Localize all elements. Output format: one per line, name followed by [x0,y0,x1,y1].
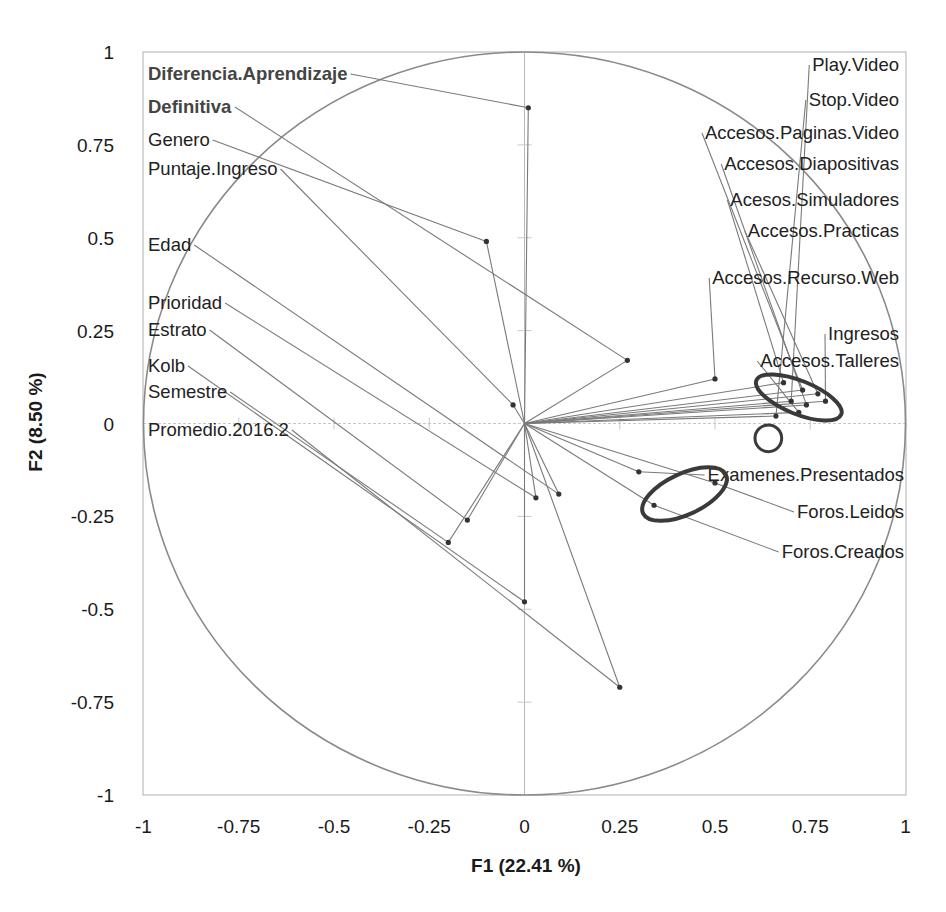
x-tick-label: -0.5 [318,816,351,837]
y-tick-label: 0.25 [77,321,114,342]
y-tick-label: -0.75 [71,692,114,713]
label-leader-line [654,505,779,552]
label-leader-line [188,366,524,602]
label-leader-line [350,74,528,108]
variable-point [651,503,656,508]
variable-point [446,540,451,545]
y-tick-label: -1 [97,785,114,806]
highlight-ellipse [634,456,734,532]
vector-line [525,401,826,423]
variable-label: Ingresos [828,323,899,344]
label-leader-line [715,483,794,512]
variable-label: Kolb [148,355,185,376]
variable-label: Promedio.2016.2 [148,419,289,440]
variable-point [526,105,531,110]
y-axis-title: F2 (8.50 %) [25,372,46,471]
variable-point [533,495,538,500]
variable-point [815,391,820,396]
x-tick-label: 0.25 [601,816,638,837]
variable-label: Foros.Creados [782,541,904,562]
x-tick-label: 0.75 [792,816,829,837]
variable-label: Accesos.Diapositivas [724,153,899,174]
variable-label: Stop.Video [809,89,899,110]
variable-point [510,402,515,407]
y-tick-label: -0.25 [71,506,114,527]
label-leader-line [281,169,513,405]
variable-label: Play.Video [812,54,899,75]
x-tick-label: 0.5 [702,816,728,837]
variable-point [712,376,717,381]
variable-point [617,685,622,690]
label-leader-line [709,278,715,379]
variable-label: Acesos.Simuladores [730,189,899,210]
vector-line [525,424,716,483]
x-axis-title: F1 (22.41 %) [471,855,581,876]
label-leader-line [194,245,559,494]
vector-line [525,424,639,472]
variable-point [636,469,641,474]
x-tick-label: -1 [135,816,152,837]
highlight-ellipse [750,365,847,430]
variable-label: Accesos.Paginas.Video [705,122,899,143]
vector-line [486,241,524,423]
variable-label: Accesos.Practicas [748,220,899,241]
variable-label: Edad [148,234,191,255]
variable-label: Genero [148,129,210,150]
highlight-circle [755,425,782,452]
y-tick-label: -0.5 [81,599,114,620]
variable-label: Examenes.Presentados [708,464,904,485]
x-tick-label: 1 [900,816,911,837]
vector-line [525,360,628,423]
variable-label: Diferencia.Aprendizaje [148,63,347,84]
variable-label: Semestre [148,381,227,402]
variable-label: Foros.Leidos [797,501,904,522]
variable-label: Puntaje.Ingreso [148,158,278,179]
variable-label: Accesos.Talleres [760,350,899,371]
variable-label: Prioridad [148,292,222,313]
vector-line [525,108,529,424]
label-leader-line [292,430,620,687]
y-axis-ticks: 10.750.50.250-0.25-0.5-0.75-1 [71,42,114,806]
variable-point [781,380,786,385]
label-leader-line [213,140,487,241]
x-axis-ticks: -1-0.75-0.5-0.2500.250.50.751 [135,816,911,837]
variable-point [804,402,809,407]
label-leader-line [225,303,536,498]
x-tick-label: -0.75 [217,816,260,837]
variable-point [789,399,794,404]
x-tick-label: -0.25 [408,816,451,837]
variable-label: Definitiva [148,96,232,117]
variable-point [800,387,805,392]
variable-label: Accesos.Recurso.Web [712,267,899,288]
variable-point [484,239,489,244]
correlation-circle-chart: Diferencia.AprendizajeDefinitivaGeneroPu… [0,0,946,912]
y-tick-label: 0.75 [77,135,114,156]
variable-point [465,517,470,522]
vector-line [525,424,620,688]
y-tick-label: 0 [103,414,114,435]
variable-point [773,413,778,418]
y-tick-label: 1 [103,42,114,63]
variable-point [823,399,828,404]
variable-point [556,491,561,496]
x-tick-label: 0 [519,816,530,837]
variable-point [522,599,527,604]
label-leader-line [639,472,705,475]
y-tick-label: 0.5 [88,228,114,249]
variable-point [625,358,630,363]
variable-label: Estrato [148,319,207,340]
